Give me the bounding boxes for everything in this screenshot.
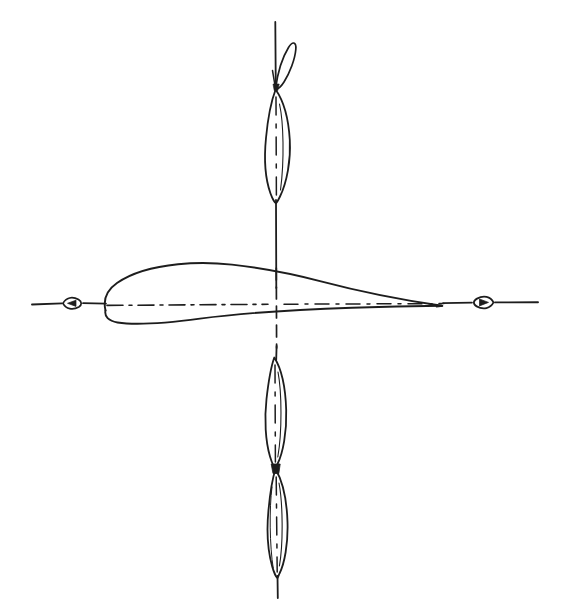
airfoil-lower-surface	[105, 306, 442, 324]
main-airfoil-section	[105, 263, 443, 324]
right-axis-arrow-marker	[474, 297, 494, 309]
airfoil-propeller-drawing	[0, 0, 567, 608]
left-axis-arrow-marker	[63, 298, 81, 309]
airfoil-chord-centerline	[107, 304, 444, 306]
lower-blade-section-lower	[268, 469, 288, 578]
tip-loop-outline	[276, 43, 296, 89]
horizontal-axis-right-inner-segment	[443, 303, 472, 304]
bottom-blade-inner-contour	[279, 483, 282, 566]
right-arrow-inner-triangle	[480, 299, 489, 306]
lower-blade-section-upper	[265, 358, 286, 469]
lower-blade-upper-inner-contour	[278, 372, 281, 457]
bottom-blade-centerline	[276, 477, 277, 572]
airfoil-trailing-edge	[436, 305, 443, 306]
vertical-axis-top-segment	[275, 22, 276, 90]
upper-blade-inner-contour	[280, 104, 284, 190]
chord-centerline-left	[107, 304, 268, 305]
chord-centerline-right	[284, 304, 444, 305]
horizontal-axis-left-segment	[32, 303, 62, 304]
upper-blade-section	[265, 90, 290, 204]
technical-drawing-canvas	[0, 0, 567, 608]
upper-blade-outline	[265, 90, 290, 204]
left-arrow-inner-triangle	[68, 300, 77, 306]
